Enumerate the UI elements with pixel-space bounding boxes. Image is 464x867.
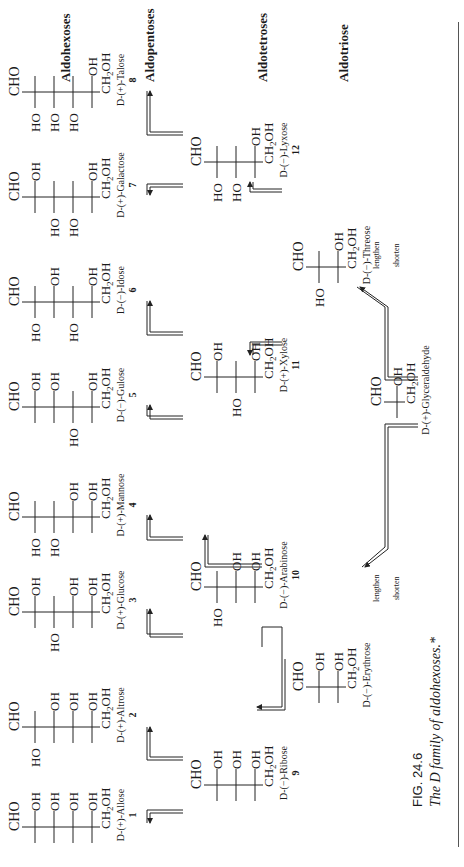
arrow-label-lengthen-right: lengthen (372, 241, 381, 269)
arrow-label-shorten-right: shorten (392, 243, 401, 267)
arrow-label-shorten-left: shorten (392, 576, 401, 600)
figure-caption: The D family of aldohexoses.* (428, 637, 444, 807)
aldose-family-figure: Aldohexoses Aldopentoses Aldotetroses Al… (0, 0, 464, 867)
arrow-label-lengthen-left: lengthen (372, 574, 381, 602)
caption-rule (458, 22, 459, 847)
connector-arrows (0, 0, 464, 867)
figure-number: FIG. 24.6 (410, 753, 425, 807)
